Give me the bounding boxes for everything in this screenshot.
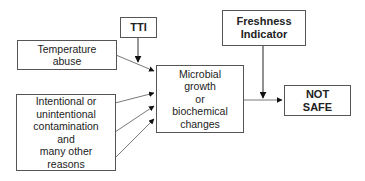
arrow-contamination-to-microbial-3 (115, 119, 154, 158)
node-contamination-line-1: Intentional or (33, 95, 98, 108)
node-not-safe-line-1: NOT (303, 88, 332, 101)
node-microbial-line-1: Microbial (172, 68, 227, 81)
node-microbial-line-4: biochemical (172, 105, 227, 118)
node-temperature-abuse: Temperature abuse (17, 40, 117, 70)
node-not-safe: NOT SAFE (284, 85, 351, 116)
arrow-contamination-to-microbial-1 (115, 93, 154, 103)
node-contamination-line-6: reasons (33, 158, 98, 171)
node-contamination-line-3: contamination (33, 120, 98, 133)
node-microbial-line-2: growth (172, 80, 227, 93)
node-freshness-line-2: Indicator (236, 28, 291, 41)
node-contamination-line-4: and (33, 133, 98, 146)
node-contamination-line-5: many other (33, 145, 98, 158)
node-freshness-line-1: Freshness (236, 15, 291, 28)
arrow-temperature-to-microbial (116, 55, 154, 71)
node-microbial-line-3: or (172, 93, 227, 106)
node-microbial: Microbial growth or biochemical changes (156, 65, 244, 133)
node-temperature-line-1: Temperature (38, 43, 97, 56)
node-temperature-line-2: abuse (38, 55, 97, 68)
arrow-contamination-to-microbial-2 (115, 106, 154, 132)
node-not-safe-line-2: SAFE (303, 101, 332, 114)
node-tti-line: TTI (130, 21, 147, 34)
node-microbial-line-5: changes (172, 118, 227, 131)
node-freshness-indicator: Freshness Indicator (222, 10, 306, 46)
node-tti: TTI (120, 17, 157, 38)
node-contamination-line-2: unintentional (33, 108, 98, 121)
node-contamination: Intentional or unintentional contaminati… (16, 94, 116, 171)
